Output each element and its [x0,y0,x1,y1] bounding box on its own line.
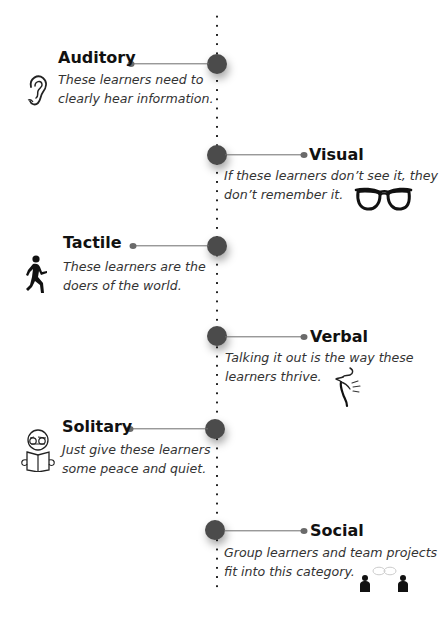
connector-dot [301,334,308,340]
item-description-line-1: If these learners don’t see it, they [224,166,438,185]
item-description-line-1: Talking it out is the way these [225,348,414,367]
item-description-line-1: These learners need to [58,70,203,89]
item-description-line-1: These learners are the [63,257,206,276]
timeline-node [207,326,227,346]
item-description-line-2: learners thrive. [225,367,321,386]
item-description-line-2: don’t remember it. [224,185,343,204]
connector-line [130,428,208,429]
ear-icon [26,73,50,107]
reading-person-icon [18,428,58,472]
connector-dot [301,152,308,158]
running-person-icon [25,255,51,297]
item-description-line-2: some peace and quiet. [62,459,206,478]
timeline-node [207,145,227,165]
connector-line [131,63,209,64]
connector-line [224,530,304,531]
item-title: Social [310,522,364,540]
connector-dot [301,528,308,534]
connector-line [225,336,304,337]
glasses-icon [353,186,413,214]
connector-line [225,154,304,155]
item-title: Visual [309,146,364,164]
two-people-chatting-icon [358,566,412,594]
item-description-line-2: clearly hear information. [58,89,214,108]
item-description-line-1: Group learners and team projects [224,543,437,562]
timeline-node [205,419,225,439]
item-description-line-2: fit into this category. [224,562,355,581]
speaking-face-icon [333,366,367,410]
timeline-node [207,54,227,74]
timeline-node [207,236,227,256]
dotted-timeline-line [216,12,218,588]
connector-line [133,245,209,246]
timeline-node [205,520,225,540]
item-description-line-2: doers of the world. [63,276,182,295]
item-title: Auditory [58,49,136,67]
item-title: Verbal [310,328,368,346]
item-title: Solitary [62,418,132,436]
item-description-line-1: Just give these learners [62,440,211,459]
item-title: Tactile [63,234,122,252]
connector-dot [130,243,137,249]
